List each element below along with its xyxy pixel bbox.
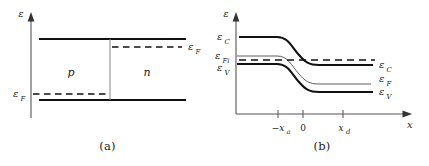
right-label-ev-sub: V (387, 93, 393, 101)
panel-a: ε p n ε F ε F (a) (0, 0, 215, 166)
y-axis-arrowhead-b (233, 12, 240, 22)
x-axis-b (236, 111, 412, 118)
x-tick-label-minus-xa-text: −x (272, 123, 285, 133)
y-axis-label-a: ε (18, 8, 23, 19)
x-tick-label-minus-xa: −x a (272, 123, 291, 136)
right-label-ef-sub: F (386, 80, 392, 88)
right-label-ec-symbol: ε (379, 59, 384, 70)
y-axis-a (28, 12, 35, 118)
x-axis-label: x (407, 119, 413, 130)
right-label-ev: ε V (379, 86, 393, 101)
p-fermi-label-subscript: F (20, 95, 26, 103)
left-label-ec-sub: C (225, 38, 231, 46)
p-fermi-label: ε F (13, 88, 26, 103)
x-tick-label-xd-text: x (338, 123, 343, 133)
left-label-efi-symbol: ε (215, 50, 220, 61)
n-fermi-label-subscript: F (195, 48, 201, 56)
left-label-ec-symbol: ε (217, 31, 222, 42)
valence-band-curve (237, 64, 373, 92)
y-axis-label-b: ε (223, 8, 228, 19)
x-tick-label-minus-xa-sub: a (287, 128, 291, 136)
panel-b: ε x −x a 0 x d (215, 0, 429, 166)
band-diagram-figure: ε p n ε F ε F (a) (0, 0, 429, 166)
caption-b: (b) (215, 139, 429, 153)
caption-a: (a) (0, 139, 215, 153)
left-label-ec: ε C (217, 31, 231, 46)
left-label-ev-symbol: ε (217, 62, 222, 73)
x-tick-label-xd: x d (338, 123, 351, 136)
p-fermi-label-symbol: ε (13, 88, 18, 99)
n-fermi-label: ε F (188, 41, 201, 56)
x-tick-label-zero: 0 (300, 123, 306, 133)
left-label-ev-sub: V (225, 69, 231, 77)
y-axis-arrowhead (28, 12, 35, 22)
left-label-efi-sub: Fi (222, 57, 230, 65)
x-tick-label-xd-sub: d (346, 128, 351, 136)
n-fermi-label-symbol: ε (188, 41, 193, 52)
right-label-ec: ε C (379, 59, 393, 74)
region-label-p: p (67, 66, 74, 79)
region-label-n: n (143, 66, 150, 79)
right-label-ef-symbol: ε (379, 73, 384, 84)
right-label-ec-sub: C (387, 66, 393, 74)
x-axis-arrowhead (403, 111, 413, 118)
x-tick-label-zero-text: 0 (300, 123, 306, 133)
right-label-ev-symbol: ε (379, 86, 384, 97)
